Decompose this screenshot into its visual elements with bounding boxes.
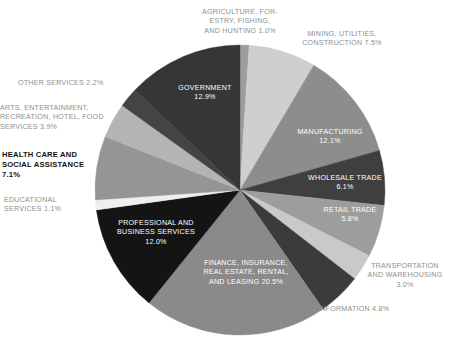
slice-label-finance-insurance-real-estate: FINANCE, INSURANCE, REAL ESTATE, RENTAL,… [181,259,311,287]
label-agriculture: AGRICULTURE, FOR- ESTRY, FISHING, AND HU… [185,8,295,36]
pie-chart-page: AGRICULTURE, FOR- ESTRY, FISHING, AND HU… [0,0,454,345]
label-other-services: OTHER SERVICES 2.2% [18,79,130,88]
slice-label-retail-trade: RETAIL TRADE 5.8% [300,206,400,225]
slice-label-wholesale-trade: WHOLESALE TRADE 6.1% [292,174,398,193]
slice-label-government: GOVERNMENT 12.9% [155,84,255,103]
label-mining-utilities-construction: MINING, UTILITIES, CONSTRUCTION 7.5% [286,30,398,49]
slice-label-manufacturing: MANUFACTURING 12.1% [277,128,383,147]
label-transportation-warehousing: TRANSPORTATION AND WAREHOUSING 3.0% [358,262,452,290]
slice-label-professional-business-services: PROFESSIONAL AND BUSINESS SERVICES 12.0% [103,219,209,247]
label-health-care-social-assistance: HEALTH CARE AND SOCIAL ASSISTANCE 7.1% [2,150,107,180]
label-information: INFORMATION 4.8% [318,305,436,314]
label-arts-entertainment-recreation: ARTS, ENTERTAINMENT, RECREATION, HOTEL, … [0,104,110,132]
label-educational-services: EDUCATIONAL SERVICES 1.1% [4,196,107,215]
